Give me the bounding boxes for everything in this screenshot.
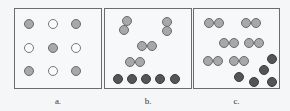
gray-particle [241, 18, 251, 28]
gray-particle [147, 41, 157, 51]
white-particle [24, 43, 34, 53]
gray-particle [213, 56, 223, 66]
dark-particle [267, 54, 277, 64]
dark-particle [127, 74, 137, 84]
white-particle [71, 43, 81, 53]
panel-label-a: a. [55, 96, 61, 106]
panel-b [104, 8, 192, 89]
panel-c [193, 8, 280, 89]
dark-particle [267, 77, 277, 87]
gray-particle [251, 18, 261, 28]
panel-label-b: b. [145, 96, 152, 106]
dark-particle [259, 65, 269, 75]
gray-particle [137, 41, 147, 51]
gray-particle [229, 56, 239, 66]
gray-particle [244, 38, 254, 48]
panel-a [14, 8, 102, 89]
gray-particle [71, 66, 81, 76]
dark-particle [155, 74, 165, 84]
gray-particle [71, 19, 81, 29]
gray-particle [125, 57, 135, 67]
gray-particle [219, 38, 229, 48]
gray-particle [204, 18, 214, 28]
dark-particle [249, 77, 259, 87]
dark-particle [113, 74, 123, 84]
gray-particle [162, 26, 172, 36]
gray-particle [239, 56, 249, 66]
gray-particle [24, 66, 34, 76]
white-particle [48, 66, 58, 76]
gray-particle [135, 57, 145, 67]
gray-particle [203, 56, 213, 66]
dark-particle [141, 74, 151, 84]
dark-particle [234, 72, 244, 82]
gray-particle [254, 38, 264, 48]
gray-particle [48, 43, 58, 53]
panel-label-c: c. [233, 96, 239, 106]
gray-particle [229, 38, 239, 48]
gray-particle [214, 18, 224, 28]
white-particle [48, 19, 58, 29]
gray-particle [119, 25, 129, 35]
dark-particle [170, 74, 180, 84]
gray-particle [24, 19, 34, 29]
